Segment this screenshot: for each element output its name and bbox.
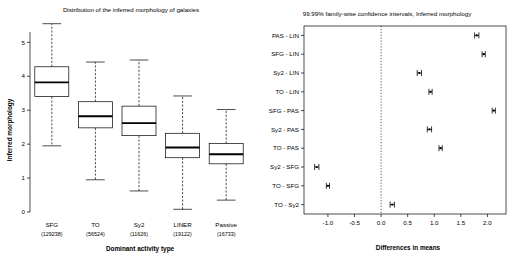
ci-interval (315, 164, 319, 170)
ci-row-label: TO - PAS (273, 144, 299, 151)
ci-interval (429, 89, 432, 95)
boxplot-category-label: SFG (45, 221, 58, 228)
ci-interval (390, 202, 394, 208)
ci-frame (304, 26, 506, 214)
ci-row-label: TO - Sy2 (274, 201, 299, 208)
ci-x-tick: -0.5 (349, 219, 360, 226)
ci-row-label: Sy2 - LIN (273, 69, 299, 76)
boxplot-y-axis-label: Inferred morphology (6, 98, 14, 161)
ci-row-label: SFG - PAS (269, 107, 299, 114)
boxplot-category-count: (11626) (130, 231, 148, 237)
boxplot-panel: Distribution of the inferred morphology … (0, 0, 258, 262)
ci-row-label: Sy2 - SFG (270, 163, 299, 170)
figure-container: Distribution of the inferred morphology … (0, 0, 516, 262)
boxplot-category-label: TO (91, 221, 100, 228)
confidence-interval-panel: 99.99% family-wise confidence intervals,… (258, 0, 516, 262)
ci-x-axis-label: Differences in means (376, 244, 441, 251)
ci-interval (326, 183, 329, 189)
ci-interval (482, 51, 485, 57)
boxplot-box (209, 110, 243, 201)
boxplot-category-count: (56524) (86, 231, 105, 237)
ci-x-tick: 1.5 (457, 219, 466, 226)
ci-x-tick: 0.5 (403, 219, 412, 226)
boxplot-box (35, 24, 69, 146)
boxplot-y-tick: 0 (22, 208, 26, 215)
boxplot-x-axis-label: Dominant activity type (106, 245, 175, 253)
ci-interval (492, 108, 495, 114)
boxplot-y-tick: 1 (22, 174, 26, 181)
boxplot-y-tick: 2 (22, 140, 26, 147)
ci-x-axis: -1.0-0.50.00.51.01.52.0 (323, 214, 493, 226)
ci-interval (417, 70, 421, 76)
boxplot-y-tick: 3 (22, 106, 26, 113)
boxplot-y-tick: 4 (22, 72, 26, 79)
ci-row-label: PAS - LIN (272, 32, 299, 39)
ci-x-tick: 1.0 (430, 219, 439, 226)
boxplot-category-label: Passive (215, 221, 237, 228)
boxplot-category-count: (19122) (173, 231, 192, 237)
ci-row-label: TO - LIN (275, 88, 299, 95)
ci-interval (427, 126, 431, 132)
boxplot-category-labels: SFG(129238)TO(56524)Sy2(11626)LINER(1912… (41, 221, 238, 237)
boxplot-category-label: LINER (173, 221, 192, 228)
boxplot-category-label: Sy2 (134, 221, 145, 228)
boxplot-svg: Distribution of the inferred morphology … (0, 0, 258, 262)
boxplot-box (122, 60, 156, 191)
boxplot-boxes (35, 24, 243, 210)
ci-x-tick: -1.0 (323, 219, 334, 226)
ci-x-tick: 0.0 (377, 219, 386, 226)
ci-x-tick: 2.0 (483, 219, 492, 226)
ci-title: 99.99% family-wise confidence intervals,… (303, 10, 472, 17)
boxplot-category-count: (129238) (41, 231, 63, 237)
boxplot-category-count: (16733) (217, 231, 236, 237)
boxplot-y-axis: 012345 (22, 32, 30, 215)
boxplot-title: Distribution of the inferred morphology … (63, 6, 199, 13)
boxplot-y-tick: 5 (22, 39, 26, 46)
boxplot-box (166, 96, 200, 209)
boxplot-box (78, 62, 112, 180)
ci-row-label: TO - SFG (272, 182, 299, 189)
ci-row-labels: PAS - LINSFG - LINSy2 - LINTO - LINSFG -… (269, 32, 304, 208)
ci-row-label: Sy2 - PAS (271, 126, 299, 133)
ci-row-label: SFG - LIN (271, 50, 299, 57)
ci-svg: 99.99% family-wise confidence intervals,… (258, 0, 516, 262)
ci-interval (475, 32, 479, 38)
ci-points (315, 32, 496, 207)
ci-interval (439, 145, 442, 151)
